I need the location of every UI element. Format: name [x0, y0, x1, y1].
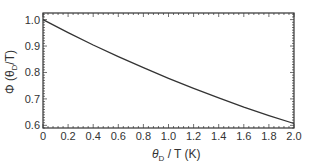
x-tick-label: 0.2: [60, 130, 75, 142]
data-curve: [43, 20, 294, 124]
y-tick-label: 0.6: [25, 119, 40, 131]
x-tick-labels: 00.20.40.60.81.01.21.41.61.82.0: [40, 130, 302, 142]
y-tick-labels: 0.60.70.80.91.0: [25, 14, 40, 132]
x-tick-label: 1.8: [261, 130, 276, 142]
chart: 00.20.40.60.81.01.21.41.61.82.0 0.60.70.…: [0, 0, 310, 166]
x-tick-label: 1.2: [186, 130, 201, 142]
x-tick-label: 0.8: [136, 130, 151, 142]
x-tick-label: 1.4: [211, 130, 226, 142]
y-tick-label: 1.0: [25, 14, 40, 26]
x-axis-label: θD / T (K): [152, 147, 201, 163]
y-tick-label: 0.8: [25, 66, 40, 78]
y-tick-label: 0.9: [25, 40, 40, 52]
y-tick-label: 0.7: [25, 93, 40, 105]
x-tick-label: 0.6: [111, 130, 126, 142]
y-axis-label: Φ (θD/T): [3, 50, 19, 94]
x-tick-label: 0.4: [86, 130, 101, 142]
x-tick-label: 1.6: [236, 130, 251, 142]
x-tick-label: 0: [40, 130, 46, 142]
x-tick-label: 2.0: [286, 130, 301, 142]
x-tick-label: 1.0: [161, 130, 176, 142]
